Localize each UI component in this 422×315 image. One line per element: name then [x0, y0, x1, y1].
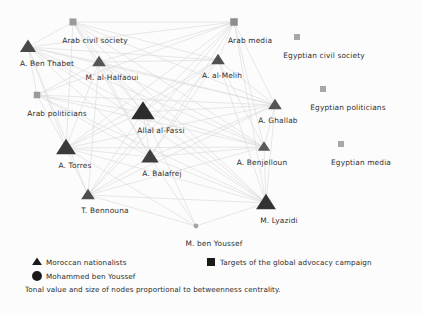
- edge-layer: [28, 22, 275, 226]
- node-egyptian_politicians[interactable]: [320, 86, 326, 92]
- network-edge: [66, 148, 266, 203]
- legend-triangle-icon: [32, 257, 42, 265]
- network-edge: [37, 22, 234, 95]
- network-edge: [66, 22, 73, 148]
- network-edge: [37, 62, 99, 95]
- network-edge: [143, 112, 266, 203]
- network-edge: [218, 60, 266, 203]
- node-arab_politicians[interactable]: [34, 92, 41, 99]
- network-edge: [28, 47, 66, 148]
- network-edge: [37, 95, 264, 147]
- legend-label-2: Targets of the global advocacy campaign: [220, 258, 372, 267]
- network-edge: [150, 22, 234, 157]
- node-egyptian_civil_society[interactable]: [294, 34, 300, 40]
- node-ben_thabet[interactable]: [20, 40, 36, 52]
- network-edge: [66, 105, 275, 148]
- network-edge: [266, 105, 275, 203]
- network-edge: [88, 105, 275, 195]
- node-ben_youssef[interactable]: [194, 224, 199, 229]
- legend-circle-icon: [32, 271, 42, 281]
- network-edge: [66, 148, 196, 226]
- network-edge: [28, 47, 150, 157]
- network-edge: [66, 147, 264, 148]
- network-edge: [218, 60, 264, 147]
- network-edge: [73, 22, 218, 60]
- node-arab_civil_society[interactable]: [70, 19, 77, 26]
- network-edge: [73, 22, 150, 157]
- network-edge: [73, 22, 266, 203]
- network-edge: [150, 157, 266, 203]
- network-edge: [150, 147, 264, 157]
- network-edge: [99, 62, 143, 112]
- legend-square-icon: [207, 258, 215, 266]
- network-edge: [66, 148, 88, 195]
- legend-label-0: Moroccan nationalists: [46, 258, 126, 267]
- network-edge: [88, 60, 218, 195]
- network-edge: [73, 22, 143, 112]
- node-egyptian_media[interactable]: [338, 141, 344, 147]
- node-arab_media[interactable]: [230, 18, 238, 26]
- network-edge: [88, 147, 264, 195]
- network-edge: [28, 47, 88, 195]
- network-edge: [66, 22, 234, 148]
- network-edge: [234, 22, 275, 105]
- network-edge: [28, 22, 73, 47]
- network-graph-canvas: [0, 0, 422, 315]
- figure-caption: Tonal value and size of nodes proportion…: [25, 285, 281, 294]
- legend-label-1: Mohammed ben Youssef: [46, 272, 135, 281]
- network-figure: Arab civil societyArab mediaEgyptian civ…: [0, 0, 422, 315]
- network-edge: [88, 195, 196, 226]
- network-edge: [88, 195, 266, 203]
- network-edge: [196, 203, 266, 226]
- network-edge: [28, 22, 234, 47]
- network-edge: [73, 22, 264, 147]
